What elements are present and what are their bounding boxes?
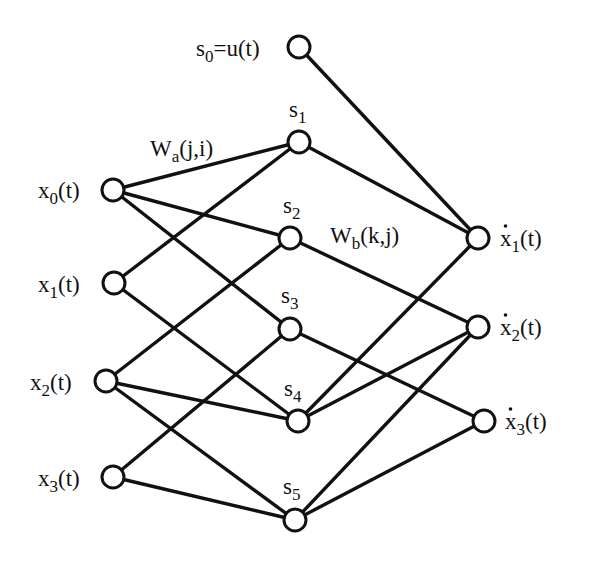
edge-s2-xd2 [290,238,478,327]
node-label-xd2: x2(t) [500,315,542,345]
node-x0 [102,179,124,201]
node-label-s0: s0=u(t) [196,36,260,66]
edge-s5-xd3 [295,421,484,520]
node-label-xd3: x3(t) [505,409,547,439]
node-label-s3: s3 [281,283,298,313]
node-s4 [287,410,309,432]
node-x2 [95,370,117,392]
node-label-xd1: x1(t) [500,226,542,256]
node-label-s1: s1 [289,97,306,127]
label-layer: Wa(j,i) Wb(k,j) s0=u(t)x0(t)x1(t)x2(t)x3… [30,36,547,504]
node-x3 [102,466,124,488]
edge-s4-xd1 [298,238,478,421]
edge-x3-s3 [113,329,290,477]
neural-network-diagram: Wa(j,i) Wb(k,j) s0=u(t)x0(t)x1(t)x2(t)x3… [0,0,589,567]
node-label-x2: x2(t) [30,370,72,400]
weight-label-wb: Wb(k,j) [330,223,399,253]
node-label-s2: s2 [283,193,300,223]
weight-label-wa: Wa(j,i) [150,136,213,166]
node-s0 [288,36,310,58]
derivative-dot-icon [509,407,513,411]
node-s2 [279,227,301,249]
node-s3 [279,318,301,340]
edge-s5-xd2 [295,327,478,520]
edge-s0-xd1 [299,47,478,238]
edge-s3-xd3 [290,329,484,421]
edge-x0-s2 [113,190,290,238]
derivative-dot-icon [504,313,508,317]
node-label-x3: x3(t) [38,466,80,496]
node-label-s5: s5 [283,474,300,504]
node-xd1 [467,227,489,249]
node-label-x0: x0(t) [38,178,80,208]
node-xd2 [467,316,489,338]
node-label-s4: s4 [284,376,302,406]
node-x1 [103,272,125,294]
node-s1 [288,131,310,153]
node-s5 [284,509,306,531]
node-label-x1: x1(t) [38,272,80,302]
node-xd3 [473,410,495,432]
derivative-dot-icon [504,224,508,228]
edge-x2-s2 [106,238,290,381]
